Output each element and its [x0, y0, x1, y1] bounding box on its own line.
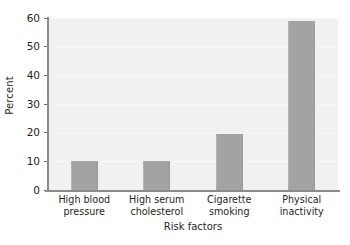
- y-axis-tick-label: 50: [27, 41, 44, 52]
- y-axis-tick-label: 20: [27, 127, 44, 138]
- x-axis-tick-label-line: Physical: [282, 194, 321, 205]
- bar-slot: [266, 18, 339, 190]
- y-axis-tick-label: 0: [33, 184, 44, 195]
- y-axis-title: Percent: [0, 0, 18, 190]
- y-axis-line: [47, 17, 49, 191]
- bar-slot: [48, 18, 121, 190]
- y-axis-tick-label: 30: [27, 98, 44, 109]
- x-axis-tick-label: Cigarettesmoking: [193, 194, 266, 217]
- bar-slot: [193, 18, 266, 190]
- y-axis-title-label: Percent: [4, 76, 15, 114]
- x-axis-tick-label-line: High serum: [129, 194, 184, 205]
- x-axis-tick-label-line: High blood: [58, 194, 110, 205]
- y-axis-tick-label: 60: [27, 12, 44, 23]
- x-axis-tick-label-line: inactivity: [266, 206, 339, 218]
- bar[interactable]: [71, 161, 98, 190]
- x-axis-tick-label-line: cholesterol: [121, 206, 194, 218]
- y-axis-ticks: 0102030405060: [18, 18, 48, 190]
- x-axis-tick-label-line: pressure: [48, 206, 121, 218]
- x-axis-tick-label-line: Cigarette: [207, 194, 251, 205]
- x-axis-tick-label: High serumcholesterol: [121, 194, 194, 217]
- x-axis-line: [45, 190, 340, 192]
- bar-chart: Percent 0102030405060 High bloodpressure…: [0, 0, 350, 245]
- x-axis-tick-labels: High bloodpressureHigh serumcholesterolC…: [48, 194, 338, 217]
- plot-area: [48, 18, 338, 190]
- x-axis-title: Risk factors: [48, 221, 338, 232]
- bar[interactable]: [288, 21, 315, 190]
- y-axis-tick-label: 40: [27, 70, 44, 81]
- bar[interactable]: [143, 161, 170, 190]
- y-axis-tick-label: 10: [27, 156, 44, 167]
- bars-group: [48, 18, 338, 190]
- x-axis-tick-label: Physicalinactivity: [266, 194, 339, 217]
- bar[interactable]: [216, 134, 243, 190]
- bar-slot: [121, 18, 194, 190]
- x-axis-tick-label: High bloodpressure: [48, 194, 121, 217]
- x-axis-tick-label-line: smoking: [193, 206, 266, 218]
